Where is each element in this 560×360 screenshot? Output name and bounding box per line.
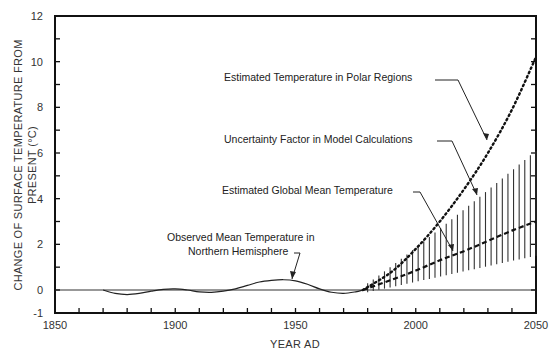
polar-leader	[435, 80, 487, 140]
x-tick-label: 1850	[43, 319, 67, 331]
observed-temperature-line	[103, 280, 363, 295]
observed-annotation-line2: Northern Hemisphere	[188, 245, 289, 257]
x-tick-label: 1900	[163, 319, 187, 331]
temperature-chart: -1024681012 18501900195020002050 Estimat…	[0, 0, 560, 360]
observed-arrowhead	[290, 271, 296, 279]
y-axis-title-line1: CHANGE OF SURFACE TEMPERATURE FROM	[12, 39, 24, 290]
y-tick-label: 12	[31, 10, 43, 22]
polar-annotation: Estimated Temperature in Polar Regions	[224, 71, 412, 83]
x-axis-title: YEAR AD	[270, 338, 320, 350]
y-tick-label: -1	[33, 307, 43, 319]
y-tick-label: 0	[37, 284, 43, 296]
uncertainty-arrowhead	[472, 188, 478, 195]
uncertainty-leader	[437, 141, 477, 195]
global-mean-dashed-line	[363, 222, 536, 291]
observed-annotation-line1: Observed Mean Temperature in	[167, 231, 315, 243]
global-arrowhead	[448, 244, 454, 251]
x-tick-label: 1950	[283, 319, 307, 331]
y-tick-label: 2	[37, 238, 43, 250]
uncertainty-annotation: Uncertainty Factor in Model Calculations	[224, 133, 413, 145]
y-tick-label: 10	[31, 56, 43, 68]
x-tick-label: 2000	[404, 319, 428, 331]
polar-dotted-line	[363, 57, 536, 290]
x-tick-label: 2050	[524, 319, 548, 331]
global-annotation: Estimated Global Mean Temperature	[222, 184, 393, 196]
global-leader	[413, 192, 453, 251]
x-axis-tick-labels: 18501900195020002050	[43, 319, 548, 331]
y-tick-label: 8	[37, 101, 43, 113]
y-axis-title-line2: PRESENT (°C)	[26, 126, 38, 204]
